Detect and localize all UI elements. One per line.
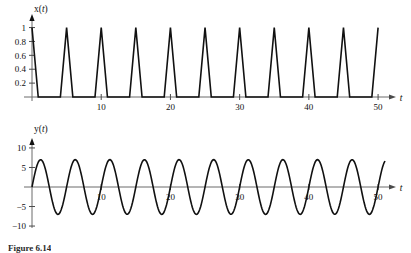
chart-svg-x: 0.20.40.60.811020304050x(t)t	[0, 0, 411, 120]
y-tick-label: −5	[16, 202, 26, 212]
figure-container: 0.20.40.60.811020304050x(t)t −10−5510102…	[0, 0, 411, 253]
x-tick-label: 40	[304, 102, 314, 112]
y-axis-title: y(t)	[34, 124, 48, 135]
y-tick-label: −10	[12, 221, 27, 231]
y-tick-label: 0.8	[15, 37, 27, 47]
x-axis-arrow	[389, 184, 396, 189]
y-axis-arrow	[29, 14, 34, 21]
chart-panel-x: 0.20.40.60.811020304050x(t)t	[0, 0, 411, 120]
x-axis-arrow	[389, 94, 396, 99]
x-axis-title: t	[400, 183, 403, 193]
y-tick-label: 5	[22, 163, 27, 173]
y-tick-label: 1	[22, 23, 27, 33]
y-tick-label: 0.4	[15, 64, 27, 74]
x-tick-label: 10	[97, 102, 107, 112]
chart-svg-y: −10−55101020304050y(t)t	[0, 118, 411, 236]
x-tick-label: 20	[166, 102, 176, 112]
x-axis-title: t	[400, 93, 403, 103]
chart-panel-y: −10−55101020304050y(t)t	[0, 118, 411, 236]
x-tick-label: 30	[235, 102, 245, 112]
x-tick-label: 50	[374, 102, 384, 112]
y-tick-label: 0.6	[15, 51, 27, 61]
y-tick-label: 0.2	[15, 78, 26, 88]
y-tick-label: 10	[17, 143, 27, 153]
x-waveform	[32, 28, 378, 97]
y-axis-title: x(t)	[34, 4, 48, 15]
y-axis-arrow	[29, 138, 34, 145]
figure-caption: Figure 6.14	[8, 243, 51, 253]
